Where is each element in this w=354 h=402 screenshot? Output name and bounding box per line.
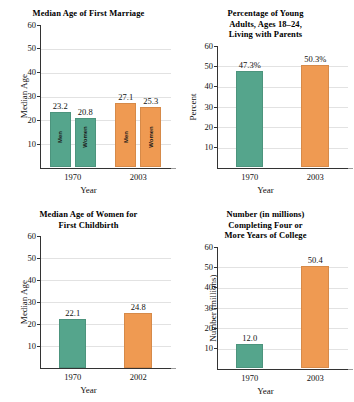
bar-inner-label: Women — [82, 126, 88, 148]
bar-value-label: 24.8 — [131, 302, 146, 312]
bar — [236, 344, 264, 368]
y-axis-tick: 40 — [195, 282, 213, 292]
chart-panel-marriage: Median Age of First Marriage Median Age1… — [0, 0, 177, 201]
x-axis-line — [40, 368, 171, 369]
x-axis-tick: 2002 — [130, 372, 147, 382]
y-axis-tick: 10 — [195, 343, 213, 353]
y-axis-tick: 10 — [18, 341, 36, 351]
y-axis-tick: 10 — [18, 139, 36, 149]
bar-inner-label: Men — [123, 131, 129, 143]
plot-area-marriage: Median Age10203040506023.2Men20.8Women27… — [0, 19, 177, 202]
x-axis-tick: 1970 — [241, 373, 258, 383]
y-axis-tick: 40 — [18, 67, 36, 77]
bar-value-label: 23.2 — [53, 101, 68, 111]
y-axis-tick: 40 — [195, 81, 213, 91]
y-axis-tick: 60 — [18, 231, 36, 241]
gridline — [40, 280, 171, 281]
chart-panel-living-with-parents: Percentage of Young Adults, Ages 18–24, … — [177, 0, 354, 201]
x-axis-line — [40, 168, 171, 169]
y-axis-tick: 60 — [18, 20, 36, 30]
bar-value-label: 22.1 — [65, 308, 80, 318]
y-axis-tick: 30 — [18, 91, 36, 101]
y-axis-tick: 30 — [195, 303, 213, 313]
y-axis-tick: 20 — [195, 323, 213, 333]
gridline — [40, 49, 171, 50]
y-axis-tick: 20 — [195, 122, 213, 132]
x-axis-extension — [348, 369, 353, 370]
y-axis-line — [217, 247, 218, 370]
bar — [124, 313, 152, 368]
y-axis-line — [40, 236, 41, 369]
bar-value-label: 27.1 — [118, 92, 133, 102]
gridline — [40, 73, 171, 74]
bar-value-label: 25.3 — [143, 96, 158, 106]
plot-area-childbirth: Median Age10203040506022.124.819702002Ye… — [0, 230, 177, 402]
gridline — [40, 302, 171, 303]
bar — [59, 319, 87, 368]
y-axis-tick: 30 — [18, 297, 36, 307]
bar-value-label: 47.3% — [239, 60, 261, 70]
y-axis-tick: 20 — [18, 115, 36, 125]
x-axis-label: Year — [80, 185, 97, 195]
bar-inner-label: Men — [57, 131, 63, 143]
bar — [301, 65, 329, 167]
y-axis-tick: 20 — [18, 319, 36, 329]
gridline — [40, 258, 171, 259]
y-axis-tick: 10 — [195, 142, 213, 152]
x-axis-tick: 2003 — [307, 172, 324, 182]
chart-title: Percentage of Young Adults, Ages 18–24, … — [191, 0, 341, 40]
x-axis-tick: 1970 — [241, 172, 258, 182]
bar-value-label: 20.8 — [78, 107, 93, 117]
x-axis-extension — [171, 368, 176, 369]
y-axis-tick: 40 — [18, 275, 36, 285]
y-axis-line — [40, 25, 41, 169]
chart-panel-college: Number (in millions) Completing Four or … — [177, 201, 354, 402]
chart-title: Median Age of Women for First Childbirth — [14, 201, 164, 230]
x-axis-line — [217, 369, 348, 370]
chart-title: Median Age of First Marriage — [14, 0, 164, 19]
x-axis-extension — [171, 168, 176, 169]
y-axis-tick: 60 — [195, 41, 213, 51]
plot-area-college: Number (millions)10203040506012.050.4197… — [177, 241, 354, 402]
bar-inner-label: Women — [148, 126, 154, 148]
x-axis-tick: 1970 — [64, 372, 81, 382]
y-axis-tick: 30 — [195, 102, 213, 112]
y-axis-line — [217, 46, 218, 169]
figure-sheet: Median Age of First Marriage Median Age1… — [0, 0, 354, 402]
y-axis-tick: 50 — [195, 262, 213, 272]
x-axis-extension — [348, 168, 353, 169]
y-axis-tick: 50 — [195, 61, 213, 71]
x-axis-tick: 2003 — [307, 373, 324, 383]
plot-area-living-with-parents: Percent10203040506047.3%50.3%19702003Yea… — [177, 40, 354, 202]
chart-panel-childbirth: Median Age of Women for First Childbirth… — [0, 201, 177, 402]
x-axis-tick: 1970 — [64, 172, 81, 182]
y-axis-tick: 50 — [18, 253, 36, 263]
bar-value-label: 12.0 — [242, 333, 257, 343]
y-axis-tick: 60 — [195, 242, 213, 252]
y-axis-tick: 50 — [18, 43, 36, 53]
x-axis-line — [217, 168, 348, 169]
x-axis-label: Year — [257, 185, 274, 195]
bar — [301, 266, 329, 368]
chart-title: Number (in millions) Completing Four or … — [191, 201, 341, 241]
x-axis-tick: 2003 — [130, 172, 147, 182]
bar — [236, 71, 264, 167]
bar-value-label: 50.3% — [304, 54, 326, 64]
x-axis-label: Year — [80, 385, 97, 395]
bar-value-label: 50.4 — [308, 255, 323, 265]
x-axis-label: Year — [257, 386, 274, 396]
